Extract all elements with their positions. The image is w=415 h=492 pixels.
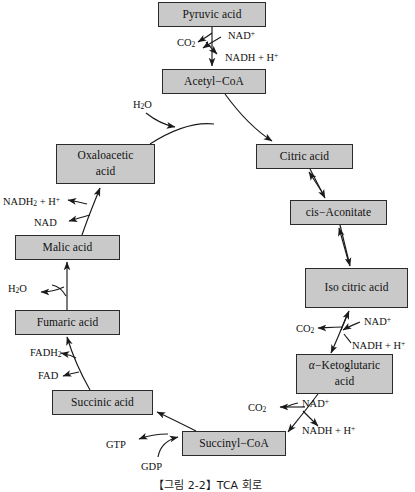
node-succinic-acid[interactable]: Succinic acid <box>52 390 153 415</box>
arrow-nad-in-isocitrate <box>343 322 360 330</box>
label-co2-pyruvate: CO2 <box>177 38 195 49</box>
label-nad-ketoglutarate: NAD+ <box>302 398 329 410</box>
label-h2o-citrate: H2O <box>133 100 152 111</box>
label-nad-isocitrate: NAD+ <box>364 316 391 328</box>
label-nadh-h-ketoglutarate: NADH + H+ <box>302 425 355 437</box>
label-nadh2-h-malate: NADH2 + H+ <box>3 196 60 208</box>
figure-caption: 【그림 2-2】TCA 회로 <box>0 476 415 492</box>
arrow-nadh2-out-malate <box>68 200 87 204</box>
node-fumaric-acid[interactable]: Fumaric acid <box>15 310 120 335</box>
label-nadh-h-pyruvate: NADH + H+ <box>225 52 278 64</box>
arrow-nadhh-out-ketoglutarate <box>303 411 318 426</box>
arrow-gdp-in-succinyl <box>158 437 178 457</box>
node-label-line2: acid <box>335 374 355 390</box>
arrow-acetyl-to-citric <box>225 94 272 141</box>
arrow-isocitric-to-aconitate <box>339 228 348 260</box>
node-oxaloacetic-acid[interactable]: Oxaloacetic acid <box>56 144 155 184</box>
label-fadh2-succinate: FADH2 <box>30 348 62 359</box>
label-gtp-succinyl: GTP <box>106 440 126 451</box>
arrow-gtp-out-succinyl <box>139 434 168 439</box>
node-acetyl-coa[interactable]: Acetyl−CoA <box>162 69 266 94</box>
arrow-h2o-in-citrate <box>146 113 175 127</box>
arrow-oxaloacetic-to-citric <box>150 124 214 144</box>
label-co2-ketoglutarate: CO2 <box>248 403 266 414</box>
arrow-co2-out-isocitrate <box>318 327 342 328</box>
label-nad-pyruvate: NAD+ <box>228 30 255 42</box>
node-malic-acid[interactable]: Malic acid <box>15 235 120 260</box>
node-label-line2: acid <box>96 164 116 180</box>
label-gdp-succinyl: GDP <box>141 462 162 473</box>
arrow-co2-out-pyruvate <box>198 33 212 42</box>
node-label-line1: Oxaloacetic <box>77 148 133 164</box>
node-pyruvic-acid[interactable]: Pyruvic acid <box>158 2 266 27</box>
label-fad-succinate: FAD <box>38 371 58 382</box>
label-nad-malate: NAD <box>34 218 57 229</box>
label-nadh-h-isocitrate: NADH + H+ <box>352 340 405 352</box>
label-co2-isocitrate: CO2 <box>296 324 314 335</box>
tca-cycle-figure: Pyruvic acid Acetyl−CoA Citric acid cis−… <box>0 0 415 492</box>
node-label-line1: α−Ketoglutaric <box>309 358 380 374</box>
node-iso-citric-acid[interactable]: Iso citric acid <box>305 268 408 308</box>
arrow-nadhh-out-isocitrate <box>344 334 351 343</box>
arrow-fad-in-succinate <box>63 372 79 376</box>
node-cis-aconitate[interactable]: cis−Aconitate <box>290 200 387 225</box>
node-alpha-ketoglutaric-acid[interactable]: α−Ketoglutaric acid <box>296 354 393 394</box>
arrow-aconitate-to-citric <box>309 172 322 192</box>
arrow-citric-to-aconitate <box>310 169 325 198</box>
arrow-succinylcoa-to-succinic <box>157 412 196 431</box>
label-h2o-fumarate: H2O <box>8 284 27 295</box>
node-citric-acid[interactable]: Citric acid <box>256 144 353 169</box>
arrow-succinic-to-fumaric <box>67 337 90 390</box>
node-succinyl-coa[interactable]: Succinyl−CoA <box>182 431 286 456</box>
arrow-malic-to-oxaloacetic <box>82 188 100 235</box>
